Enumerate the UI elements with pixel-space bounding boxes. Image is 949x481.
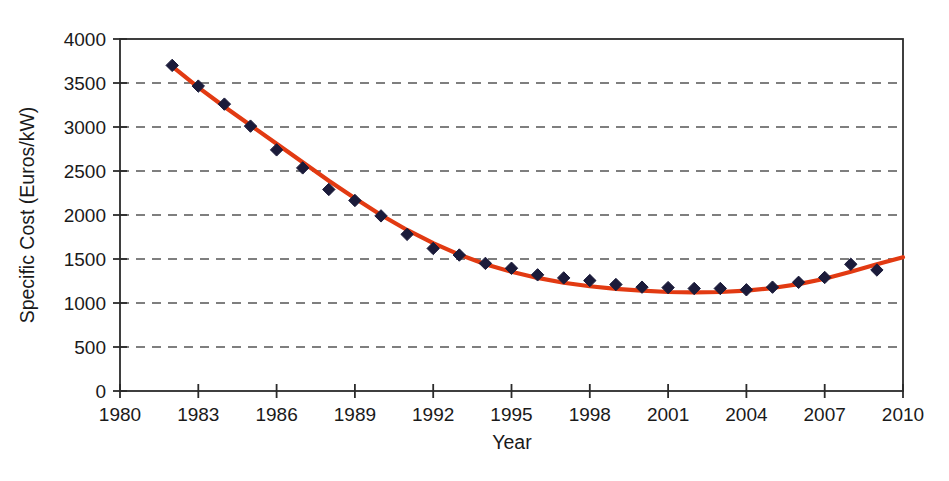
x-tick-label: 1986 — [255, 404, 297, 425]
x-tick-label: 1983 — [177, 404, 219, 425]
y-tick-label: 500 — [74, 337, 106, 358]
y-axis-title: Specific Cost (Euros/kW) — [16, 107, 38, 324]
y-tick-label: 1000 — [64, 293, 106, 314]
x-tick-label: 2007 — [804, 404, 846, 425]
x-tick-label: 1989 — [334, 404, 376, 425]
y-tick-label: 2000 — [64, 205, 106, 226]
y-tick-label: 2500 — [64, 161, 106, 182]
x-tick-label: 2010 — [882, 404, 924, 425]
x-tick-label: 2001 — [647, 404, 689, 425]
y-tick-label: 3500 — [64, 73, 106, 94]
y-tick-label: 0 — [95, 381, 106, 402]
y-tick-label: 4000 — [64, 29, 106, 50]
y-tick-label: 3000 — [64, 117, 106, 138]
x-tick-label: 1992 — [412, 404, 454, 425]
chart-figure: 05001000150020002500300035004000 1980198… — [0, 0, 949, 481]
x-tick-label: 1980 — [99, 404, 141, 425]
y-tick-label: 1500 — [64, 249, 106, 270]
x-axis-title: Year — [492, 431, 532, 453]
x-tick-label: 1998 — [569, 404, 611, 425]
x-tick-label: 1995 — [490, 404, 532, 425]
chart-plot-area: 05001000150020002500300035004000 1980198… — [0, 0, 949, 481]
x-tick-label: 2004 — [725, 404, 768, 425]
